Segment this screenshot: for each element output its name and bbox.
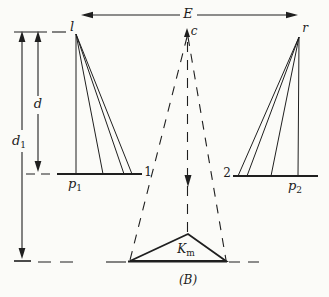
- p1-subscript: 1: [76, 183, 82, 193]
- center-dashed-rays: [130, 28, 226, 260]
- d1-subscript: 1: [20, 140, 26, 150]
- right-ray-bundle: [238, 37, 299, 176]
- depth-label-d1: d1: [12, 134, 26, 147]
- diagram-linework: [0, 0, 329, 297]
- right-plane-label-p2: p2: [288, 179, 302, 192]
- right-station-label-r: r: [302, 22, 308, 34]
- p2-subscript: 2: [296, 185, 302, 195]
- right-index-label-2: 2: [223, 167, 231, 179]
- span-label-E: E: [183, 7, 193, 20]
- Km-subscript: m: [186, 248, 195, 258]
- left-station-label-l: l: [70, 20, 74, 33]
- center-down-arrowhead: [185, 175, 192, 187]
- left-ray-bundle: [76, 34, 132, 174]
- figure-caption: (B): [179, 274, 197, 286]
- depth-label-d: d: [34, 97, 42, 110]
- Km-base: K: [177, 242, 186, 256]
- c-up-arrowhead: [184, 28, 190, 37]
- stereo-projection-diagram: E l c r d d1 p1 1 2 p2 Km (B): [0, 0, 329, 297]
- left-plane-label-p1: p1: [68, 177, 82, 190]
- left-index-label-1: 1: [144, 166, 152, 178]
- model-point-label-Km: Km: [177, 243, 195, 255]
- center-station-label-c: c: [191, 25, 198, 37]
